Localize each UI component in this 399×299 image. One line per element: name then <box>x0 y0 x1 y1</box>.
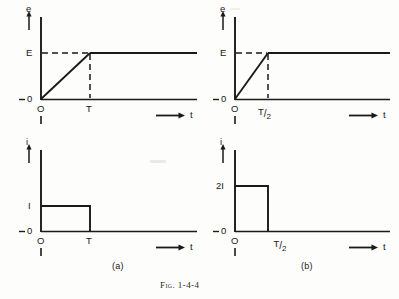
panel-a-voltage-zero-tick-label: 0 <box>27 94 32 104</box>
figure-caption-number: 1-4-4 <box>178 280 200 290</box>
panel-b-current-axes <box>213 144 390 256</box>
figure-caption-prefix: Fig. <box>160 280 175 290</box>
breakpoint-numerator: T <box>274 238 280 249</box>
panel-b-current-y-axis-label: i <box>220 137 222 147</box>
panel-b-voltage-curve <box>235 53 390 99</box>
panel-b-voltage-y-axis-label: e <box>220 4 225 14</box>
panel-a-voltage-axes <box>19 11 197 124</box>
panel-a-current-breakpoint-label: T <box>86 236 92 246</box>
panel-a-sublabel: (a) <box>112 262 124 271</box>
panel-a-current-y-axis-label: i <box>26 137 28 147</box>
panel-a-voltage-x-axis-label: t <box>190 110 193 120</box>
panel-b-voltage-zero-tick-label: 0 <box>221 94 226 104</box>
figure-caption: Fig. 1-4-4 <box>160 280 199 290</box>
panel-b-current-pulse <box>235 186 268 231</box>
panel-b-current-breakpoint-label: T/2 <box>274 241 287 251</box>
panel-b-current-x-axis-label: t <box>383 242 386 252</box>
panel-a-current-zero-tick-label: 0 <box>27 226 32 236</box>
scan-artifact <box>230 8 240 10</box>
panel-a-current-x-axis-label: t <box>190 242 193 252</box>
panel-a-voltage-origin-label: O <box>37 104 44 114</box>
figure-page: e E 0 O T t e E 0 O T/2 t i I 0 O T t (a… <box>0 0 399 299</box>
panel-b-voltage-breakpoint-label: T/2 <box>258 109 271 119</box>
breakpoint-numerator: T <box>258 106 264 117</box>
scan-artifact <box>150 160 166 163</box>
panel-b-current-level-label: 2I <box>216 181 224 191</box>
panel-a-current-pulse <box>41 206 90 231</box>
panel-b-voltage-origin-label: O <box>231 104 238 114</box>
panel-a-voltage-y-axis-label: e <box>26 4 31 14</box>
panel-a-voltage-level-label: E <box>26 48 32 58</box>
breakpoint-denominator: 2 <box>282 244 286 253</box>
breakpoint-denominator: 2 <box>267 112 271 121</box>
panel-a-current-axes <box>19 144 197 256</box>
panel-a-voltage-curve <box>41 53 197 99</box>
panel-a-voltage-breakpoint-label: T <box>86 104 92 114</box>
panel-b-sublabel: (b) <box>301 262 313 271</box>
figure-graphics <box>0 0 399 299</box>
panel-a-current-origin-label: O <box>37 236 44 246</box>
panel-b-current-zero-tick-label: 0 <box>221 226 226 236</box>
panel-b-current-origin-label: O <box>231 236 238 246</box>
panel-b-voltage-axes <box>213 11 390 124</box>
panel-b-voltage-level-label: E <box>220 48 226 58</box>
panel-a-current-level-label: I <box>28 201 31 211</box>
panel-b-voltage-x-axis-label: t <box>383 110 386 120</box>
